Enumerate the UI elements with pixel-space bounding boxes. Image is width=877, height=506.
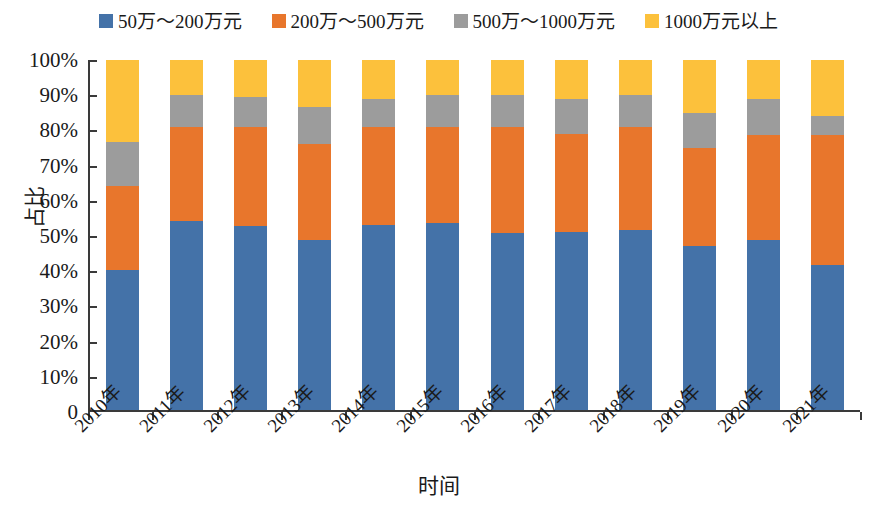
bar-segment[interactable] [683, 148, 716, 246]
bar-segment[interactable] [491, 60, 524, 95]
bar-slot [347, 60, 411, 410]
stacked-bar[interactable] [362, 60, 395, 410]
bar-segment[interactable] [170, 127, 203, 222]
x-axis-title: 时间 [0, 476, 877, 497]
bar-segment[interactable] [811, 60, 844, 116]
legend-swatch-icon [272, 14, 286, 28]
bar-segment[interactable] [234, 127, 267, 227]
legend-item[interactable]: 500万～1000万元 [454, 12, 616, 31]
stacked-bar[interactable] [491, 60, 524, 410]
bar-segment[interactable] [234, 97, 267, 127]
bar-segment[interactable] [619, 127, 652, 230]
x-label-slot: 2021年 [796, 418, 860, 478]
bar-segment[interactable] [106, 186, 139, 270]
bar-segment[interactable] [619, 60, 652, 95]
bar-slot [796, 60, 860, 410]
bar-segment[interactable] [491, 127, 524, 234]
stacked-bar[interactable] [811, 60, 844, 410]
y-axis-tick-label: 30% [40, 296, 79, 317]
bar-segment[interactable] [491, 95, 524, 127]
bar-segment[interactable] [298, 107, 331, 144]
y-axis-title: 占比 [25, 162, 46, 252]
bar-segment[interactable] [683, 60, 716, 113]
bar-segment[interactable] [811, 135, 844, 265]
bar-group [90, 60, 860, 410]
bar-segment[interactable] [747, 99, 780, 136]
bar-segment[interactable] [362, 99, 395, 127]
bar-segment[interactable] [170, 60, 203, 95]
bar-slot [539, 60, 603, 410]
bar-segment[interactable] [234, 60, 267, 97]
bar-segment[interactable] [106, 142, 139, 186]
stacked-bar[interactable] [426, 60, 459, 410]
stacked-bar[interactable] [619, 60, 652, 410]
legend-item[interactable]: 1000万元以上 [645, 12, 778, 31]
y-axis-tick-label: 100% [29, 50, 78, 71]
bar-segment[interactable] [619, 95, 652, 127]
stacked-bar-chart: 50万～200万元200万～500万元500万～1000万元1000万元以上 0… [0, 0, 877, 506]
bar-segment[interactable] [362, 60, 395, 99]
bar-segment[interactable] [683, 113, 716, 148]
y-axis-tick-label: 10% [40, 366, 79, 387]
bar-segment[interactable] [811, 116, 844, 135]
x-axis-labels: 2010年2011年2012年2013年2014年2015年2016年2017年… [88, 418, 860, 478]
bar-segment[interactable] [106, 60, 139, 142]
bar-segment[interactable] [555, 60, 588, 99]
stacked-bar[interactable] [106, 60, 139, 410]
legend-item[interactable]: 200万～500万元 [272, 12, 424, 31]
legend-swatch-icon [99, 14, 113, 28]
legend-swatch-icon [454, 14, 468, 28]
chart-legend: 50万～200万元200万～500万元500万～1000万元1000万元以上 [0, 6, 877, 36]
bar-segment[interactable] [747, 135, 780, 240]
bar-segment[interactable] [298, 60, 331, 107]
bar-segment[interactable] [170, 95, 203, 127]
bar-segment[interactable] [555, 99, 588, 134]
bar-slot [218, 60, 282, 410]
stacked-bar[interactable] [555, 60, 588, 410]
x-axis-tick-mark [860, 412, 862, 420]
bar-slot [283, 60, 347, 410]
bar-slot [603, 60, 667, 410]
legend-label: 500万～1000万元 [473, 12, 616, 31]
legend-label: 200万～500万元 [291, 12, 424, 31]
bar-slot [475, 60, 539, 410]
stacked-bar[interactable] [298, 60, 331, 410]
y-axis-tick-label: 80% [40, 120, 79, 141]
bar-segment[interactable] [426, 60, 459, 95]
bar-slot [154, 60, 218, 410]
bar-segment[interactable] [298, 144, 331, 240]
stacked-bar[interactable] [170, 60, 203, 410]
legend-item[interactable]: 50万～200万元 [99, 12, 242, 31]
bar-slot [411, 60, 475, 410]
bar-slot [668, 60, 732, 410]
bar-segment[interactable] [362, 127, 395, 225]
bar-segment[interactable] [426, 127, 459, 223]
bar-slot [732, 60, 796, 410]
bar-segment[interactable] [747, 60, 780, 99]
stacked-bar[interactable] [747, 60, 780, 410]
y-axis-tick-label: 40% [40, 261, 79, 282]
bar-segment[interactable] [555, 134, 588, 232]
plot-area [88, 60, 860, 412]
stacked-bar[interactable] [234, 60, 267, 410]
y-axis-tick-label: 20% [40, 331, 79, 352]
y-axis-tick-label: 90% [40, 85, 79, 106]
legend-label: 50万～200万元 [118, 12, 242, 31]
legend-label: 1000万元以上 [664, 12, 778, 31]
stacked-bar[interactable] [683, 60, 716, 410]
bar-slot [90, 60, 154, 410]
bar-segment[interactable] [426, 95, 459, 127]
legend-swatch-icon [645, 14, 659, 28]
